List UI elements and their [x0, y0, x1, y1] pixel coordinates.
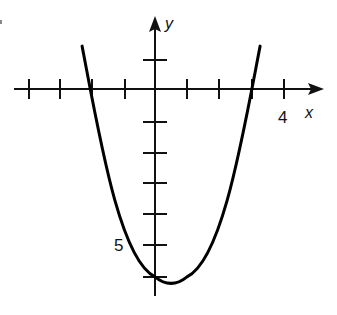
edge-artifact: [0, 20, 2, 24]
y-tick-label-5: 5: [114, 236, 123, 255]
parabola-chart: y x 4 5: [0, 0, 337, 315]
x-tick-label-4: 4: [278, 108, 287, 127]
y-axis-label: y: [164, 15, 174, 32]
x-axis-label: x: [304, 104, 314, 121]
parabola-curve: [82, 46, 260, 283]
